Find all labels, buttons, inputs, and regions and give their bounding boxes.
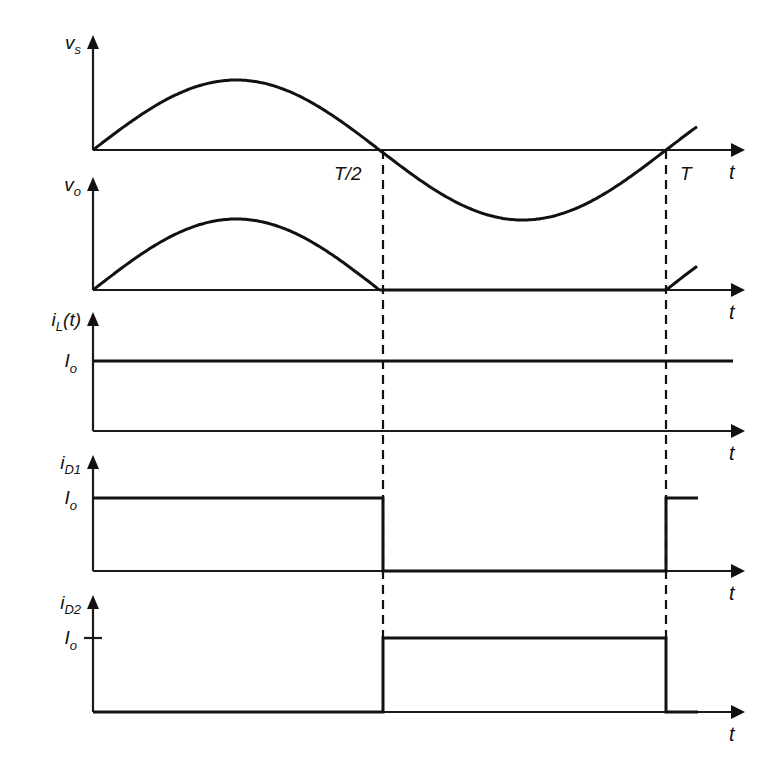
axes	[84, 35, 745, 719]
time-axis-arrow-icon	[731, 283, 745, 297]
y-axis-label-iD2: iD2	[60, 592, 82, 617]
time-axis-arrow-icon	[731, 705, 745, 719]
y-axis-arrow-icon	[87, 312, 99, 326]
plot-iD1	[87, 455, 745, 578]
plot-vs	[87, 35, 745, 157]
waveforms	[93, 80, 733, 712]
y-axis-arrow-icon	[87, 455, 99, 469]
half-period-label: T/2	[334, 163, 362, 184]
y-axis-arrow-icon	[87, 35, 99, 49]
y-axis-label-iL: iL(t)	[52, 309, 81, 334]
time-axis-label: t	[729, 442, 736, 464]
level-label-iL: Io	[64, 350, 77, 376]
time-axis-arrow-icon	[731, 143, 745, 157]
level-label-iD1: Io	[64, 487, 77, 513]
waveform-vo	[93, 219, 697, 290]
y-axis-label-iD1: iD1	[60, 452, 81, 477]
time-axis-label: t	[729, 301, 736, 323]
y-axis-arrow-icon	[87, 595, 99, 609]
y-axis-label-vs: vs	[65, 32, 82, 57]
time-marker-dashed-lines	[383, 150, 666, 638]
level-label-iD2: Io	[64, 627, 77, 653]
plot-vo	[87, 177, 745, 297]
plot-iL	[87, 312, 745, 438]
rectifier-waveform-diagram: T/2TtvstvotiL(t)IotiD1IotiD2Io	[0, 0, 782, 773]
waveform-iD2	[93, 638, 698, 712]
time-axis-arrow-icon	[731, 424, 745, 438]
time-axis-arrow-icon	[731, 564, 745, 578]
y-axis-label-vo: vo	[64, 174, 81, 199]
period-label: T	[680, 163, 693, 184]
waveform-iD1	[93, 498, 698, 571]
y-axis-arrow-icon	[87, 177, 99, 191]
time-axis-label: t	[729, 723, 736, 745]
time-axis-label: t	[729, 161, 736, 183]
plot-iD2	[84, 595, 745, 719]
time-axis-label: t	[729, 582, 736, 604]
